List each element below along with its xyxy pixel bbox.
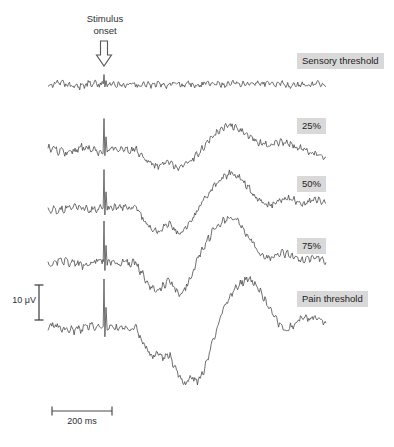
trace-label-50-percent: 50% (297, 176, 326, 192)
time-scale-bar (52, 407, 112, 416)
trace-label-sensory-threshold: Sensory threshold (297, 53, 384, 69)
evoked-potential-figure: Stimulus onset 10 μV 200 ms Sensory thre… (0, 0, 394, 447)
stimulus-onset-label: Stimulus onset (62, 13, 148, 36)
trace-line (48, 119, 326, 171)
trace-label-pain-threshold: Pain threshold (297, 291, 368, 307)
time-scale-label: 200 ms (42, 416, 122, 428)
arrow-down-icon (97, 41, 112, 66)
trace-label-75-percent: 75% (297, 238, 326, 254)
trace-line (48, 170, 326, 235)
amplitude-scale-label: 10 μV (8, 295, 36, 307)
trace-line (48, 277, 326, 385)
trace-line (48, 75, 326, 90)
trace-label-25-percent: 25% (297, 118, 326, 134)
traces-group (48, 75, 326, 385)
